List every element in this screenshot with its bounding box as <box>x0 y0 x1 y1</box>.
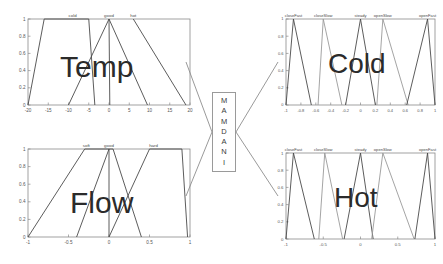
svg-text:0.4: 0.4 <box>388 108 394 113</box>
svg-text:-0.5: -0.5 <box>65 240 73 245</box>
svg-text:0.6: 0.6 <box>402 108 408 113</box>
chart-svg-hot: -1-0.500.5100.20.40.60.81closeFastcloseS… <box>268 140 440 252</box>
svg-text:0.6: 0.6 <box>19 182 26 187</box>
svg-text:good: good <box>104 13 114 18</box>
svg-text:0: 0 <box>108 108 111 113</box>
svg-text:closeSlow: closeSlow <box>314 147 332 152</box>
mamdani-letter: A <box>221 106 226 116</box>
svg-text:-0.5: -0.5 <box>320 242 328 247</box>
svg-text:-10: -10 <box>65 108 72 113</box>
svg-text:0: 0 <box>359 242 362 247</box>
mamdani-letter: M <box>221 117 227 127</box>
svg-text:hot: hot <box>130 13 137 18</box>
mamdani-letter: M <box>221 96 227 106</box>
svg-text:1: 1 <box>189 240 192 245</box>
chart-svg-cold: -1-0.8-0.6-0.4-0.200.20.40.60.8100.20.40… <box>268 6 440 118</box>
svg-text:0.2: 0.2 <box>19 217 26 222</box>
mamdani-letter: I <box>223 158 225 168</box>
svg-text:1: 1 <box>434 242 437 247</box>
chart-svg-flow: -1-0.500.5100.20.40.60.81softgoodhard <box>8 136 196 252</box>
svg-text:5: 5 <box>128 108 131 113</box>
svg-text:0.6: 0.6 <box>278 51 284 56</box>
chart-panel-cold: -1-0.8-0.6-0.4-0.200.20.40.60.8100.20.40… <box>268 6 440 118</box>
svg-text:openFast: openFast <box>419 13 437 18</box>
svg-text:-1: -1 <box>284 242 288 247</box>
svg-text:0.6: 0.6 <box>19 51 26 56</box>
svg-text:0.5: 0.5 <box>146 240 153 245</box>
chart-svg-temp: -20-15-10-50510152000.20.40.60.81coldgoo… <box>8 6 196 118</box>
svg-text:1: 1 <box>281 151 284 156</box>
svg-text:-5: -5 <box>87 108 92 113</box>
svg-text:soft: soft <box>83 143 91 148</box>
svg-text:closeFast: closeFast <box>285 147 303 152</box>
svg-text:0.2: 0.2 <box>19 85 26 90</box>
svg-text:0.4: 0.4 <box>278 68 284 73</box>
svg-text:1: 1 <box>23 147 26 152</box>
svg-text:openSlow: openSlow <box>374 13 392 18</box>
svg-text:1: 1 <box>434 108 437 113</box>
svg-text:0: 0 <box>23 235 26 240</box>
svg-text:0.5: 0.5 <box>395 242 402 247</box>
svg-text:0.4: 0.4 <box>19 199 26 204</box>
mamdani-letter: N <box>221 147 226 157</box>
svg-text:good: good <box>104 143 114 148</box>
chart-panel-hot: -1-0.500.5100.20.40.60.81closeFastcloseS… <box>268 140 440 252</box>
svg-text:0.4: 0.4 <box>278 202 285 207</box>
svg-text:-1: -1 <box>284 108 288 113</box>
svg-text:0.8: 0.8 <box>19 34 26 39</box>
svg-text:steady: steady <box>354 147 367 152</box>
svg-text:0: 0 <box>359 108 362 113</box>
svg-text:-0.4: -0.4 <box>327 108 335 113</box>
svg-text:0.8: 0.8 <box>278 168 285 173</box>
svg-text:1: 1 <box>23 17 26 22</box>
svg-text:-0.8: -0.8 <box>297 108 305 113</box>
svg-text:steady: steady <box>354 13 367 18</box>
svg-text:0: 0 <box>108 240 111 245</box>
svg-text:-1: -1 <box>26 240 31 245</box>
svg-text:openSlow: openSlow <box>374 147 392 152</box>
svg-text:-20: -20 <box>25 108 32 113</box>
mamdani-letter: A <box>221 137 226 147</box>
svg-text:10: 10 <box>147 108 153 113</box>
chart-panel-flow: -1-0.500.5100.20.40.60.81softgoodhard Fl… <box>8 136 196 252</box>
svg-text:-0.2: -0.2 <box>342 108 350 113</box>
svg-text:cold: cold <box>69 13 78 18</box>
chart-panel-temp: -20-15-10-50510152000.20.40.60.81coldgoo… <box>8 6 196 118</box>
svg-text:0.4: 0.4 <box>19 68 26 73</box>
svg-text:-0.6: -0.6 <box>312 108 320 113</box>
svg-text:0.6: 0.6 <box>278 185 285 190</box>
svg-text:0.8: 0.8 <box>19 164 26 169</box>
svg-text:hard: hard <box>149 143 158 148</box>
svg-text:15: 15 <box>167 108 173 113</box>
svg-text:closeFast: closeFast <box>285 13 303 18</box>
svg-text:0.2: 0.2 <box>278 85 284 90</box>
svg-text:0.2: 0.2 <box>373 108 379 113</box>
fuzzy-inference-diagram: -20-15-10-50510152000.20.40.60.81coldgoo… <box>0 0 443 264</box>
svg-text:openFast: openFast <box>419 147 437 152</box>
svg-text:closeSlow: closeSlow <box>314 13 332 18</box>
mamdani-inference-box: MAMDANI <box>212 92 236 172</box>
svg-text:0.8: 0.8 <box>278 34 284 39</box>
svg-text:0.8: 0.8 <box>417 108 423 113</box>
svg-text:0.2: 0.2 <box>278 219 285 224</box>
mamdani-letter: D <box>221 127 226 137</box>
svg-text:0: 0 <box>23 103 26 108</box>
svg-text:20: 20 <box>187 108 193 113</box>
svg-text:-15: -15 <box>45 108 52 113</box>
